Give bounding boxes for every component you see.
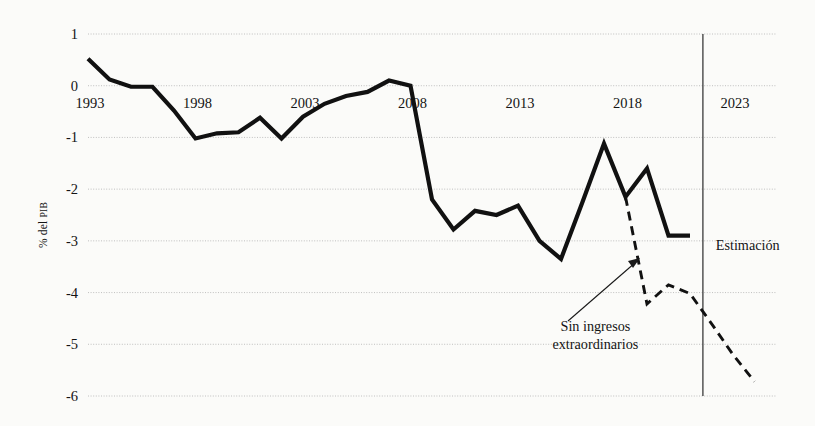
sin-ingresos-callout-arrow bbox=[568, 258, 640, 321]
y-axis-title-smallcaps: PIB bbox=[38, 202, 49, 218]
series-saldo-observado bbox=[88, 59, 690, 259]
chart-container: 10-1-2-3-4-5-6 1993199820032008201320182… bbox=[0, 0, 815, 426]
y-axis-title-main: % del bbox=[37, 217, 49, 248]
gridlines-group bbox=[88, 34, 776, 396]
x-tick-label-2023: 2023 bbox=[721, 95, 750, 111]
y-axis-title: % del PIB bbox=[37, 202, 49, 248]
y-tick-label-1: 1 bbox=[71, 26, 78, 42]
y-tick-label--4: -4 bbox=[66, 285, 79, 301]
y-tick-label--3: -3 bbox=[66, 233, 78, 249]
x-tick-label-1998: 1998 bbox=[183, 95, 212, 111]
y-tick-label--5: -5 bbox=[66, 336, 78, 352]
y-axis-tick-labels: 10-1-2-3-4-5-6 bbox=[66, 26, 79, 404]
estimacion-annotation-label: Estimación bbox=[716, 237, 780, 253]
x-tick-label-2018: 2018 bbox=[613, 95, 642, 111]
y-tick-label--2: -2 bbox=[66, 181, 78, 197]
sin-ingresos-annotation-line1: Sin ingresos bbox=[561, 318, 631, 334]
x-tick-label-1993: 1993 bbox=[76, 95, 105, 111]
y-tick-label-0: 0 bbox=[71, 78, 78, 94]
sin-ingresos-annotation-line2: extraordinarios bbox=[552, 336, 638, 352]
line-chart: 10-1-2-3-4-5-6 1993199820032008201320182… bbox=[0, 0, 815, 426]
y-tick-label--1: -1 bbox=[66, 129, 78, 145]
series-sin-ingresos-extraordinarios bbox=[626, 197, 755, 382]
y-tick-label--6: -6 bbox=[66, 388, 78, 404]
x-tick-label-2013: 2013 bbox=[506, 95, 535, 111]
